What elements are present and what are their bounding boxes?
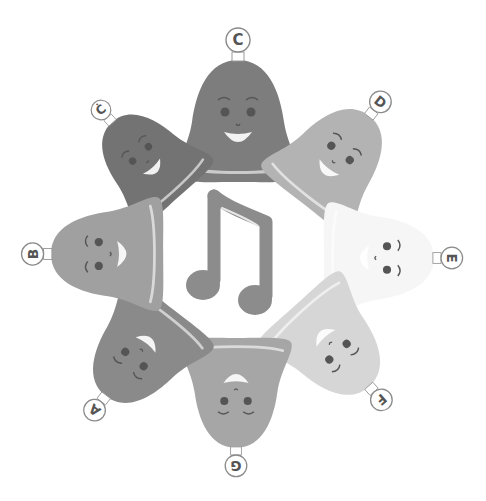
bell-handle (433, 253, 441, 264)
left-eye (383, 242, 391, 250)
right-eye (220, 397, 228, 405)
note-label: E (444, 253, 460, 262)
bells-ring: CĊDEFGAB (22, 28, 463, 477)
bell-choir-illustration: CĊDEFGAB (0, 0, 486, 501)
right-eye (247, 108, 256, 117)
right-eye (95, 238, 103, 246)
right-eye (383, 266, 391, 274)
note-label: C (232, 31, 243, 49)
bell-handle (232, 52, 244, 61)
bell-handle (44, 248, 52, 259)
bell-character-B: B (22, 197, 164, 311)
eighth-note-pair-icon (186, 196, 272, 315)
bell-handle (231, 447, 242, 455)
note-label: B (25, 249, 41, 260)
bell-body (51, 197, 163, 311)
left-eye (95, 262, 103, 270)
left-eye (221, 108, 230, 117)
note-label: G (230, 458, 241, 474)
left-eye (244, 397, 252, 405)
